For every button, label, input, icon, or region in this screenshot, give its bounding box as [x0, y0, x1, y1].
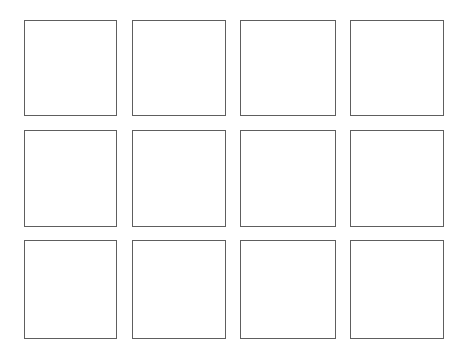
- grid-square-r2-c4: [350, 130, 444, 227]
- grid-square-r3-c2: [132, 240, 226, 339]
- grid-square-r3-c3: [240, 240, 336, 339]
- grid-square-r1-c4: [350, 20, 444, 116]
- grid-square-r3-c4: [350, 240, 444, 339]
- square-grid: [0, 0, 467, 350]
- grid-square-r1-c3: [240, 20, 336, 116]
- grid-square-r2-c1: [24, 130, 117, 227]
- grid-square-r1-c2: [132, 20, 226, 116]
- grid-square-r1-c1: [24, 20, 117, 116]
- grid-square-r2-c2: [132, 130, 226, 227]
- grid-square-r3-c1: [24, 240, 117, 339]
- grid-square-r2-c3: [240, 130, 336, 227]
